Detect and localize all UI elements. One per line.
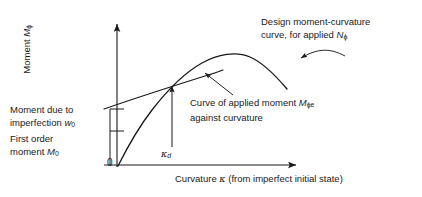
imperfection-annotation: Moment due to imperfection w0 (10, 104, 75, 131)
design-curve-annotation: Design moment-curvature curve, for appli… (261, 16, 370, 43)
x-axis-label-prefix: Curvature (175, 173, 219, 184)
applied-moment-leader-arrow (205, 73, 233, 95)
design-curve-leader-arrow (301, 50, 345, 58)
design-curve-line2-prefix: curve, for applied (261, 29, 337, 40)
applied-moment-symbol: M (299, 97, 307, 108)
moment-curvature-figure: Moment Mϕ Curvature κ (from imperfect in… (0, 0, 422, 197)
y-axis-subscript: ϕ (25, 25, 32, 29)
imperfection-line1: Moment due to (10, 104, 73, 115)
applied-moment-line1-prefix: Curve of applied moment (190, 97, 299, 108)
applied-moment-annotation: Curve of applied moment Mϕe against curv… (190, 97, 314, 124)
imperfection-subscript: 0 (71, 121, 75, 128)
design-curve-line1: Design moment-curvature (261, 16, 370, 27)
first-order-annotation: First order moment M0 (10, 133, 59, 160)
design-curve-subscript: ϕ (343, 33, 347, 40)
first-order-line1: First order (10, 133, 53, 144)
kappa-d-label: κd (161, 148, 171, 163)
kappa-subscript: d (167, 152, 171, 159)
origin-label: 0 (107, 157, 113, 170)
first-order-line2-prefix: moment (10, 146, 47, 157)
y-axis-symbol: M (21, 29, 32, 37)
imperfection-line2-prefix: imperfection (10, 117, 64, 128)
x-axis-label: Curvature κ (from imperfect initial stat… (175, 173, 343, 186)
applied-moment-subscript: ϕe (307, 101, 315, 108)
first-order-subscript: 0 (55, 150, 59, 157)
applied-moment-line2: against curvature (190, 112, 263, 123)
x-axis-label-suffix: (from imperfect initial state) (226, 173, 343, 184)
y-axis-label: Moment Mϕ (21, 6, 36, 92)
y-axis-label-text: Moment (21, 37, 32, 74)
first-order-symbol: M (47, 146, 55, 157)
